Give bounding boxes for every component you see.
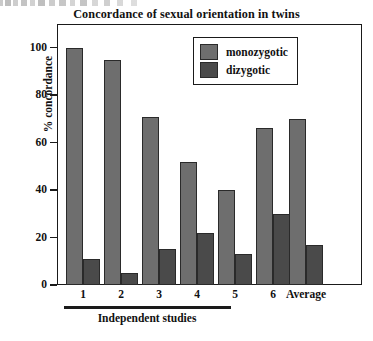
y-tick-mark xyxy=(50,284,57,286)
y-tick-mark xyxy=(50,237,57,239)
bar-dizygotic-average xyxy=(306,245,323,285)
y-tick-mark xyxy=(50,94,57,96)
chart-legend: monozygotic dizygotic xyxy=(193,37,298,85)
bar-monozygotic-6 xyxy=(256,128,273,285)
y-tick-label: 40 xyxy=(36,184,48,196)
bar-dizygotic-5 xyxy=(235,254,252,285)
legend-swatch-monozygotic xyxy=(200,44,218,60)
bar-dizygotic-6 xyxy=(273,214,290,285)
bar-monozygotic-average xyxy=(289,119,306,285)
bar-monozygotic-5 xyxy=(218,190,235,285)
y-tick-label: 60 xyxy=(36,136,48,148)
bar-monozygotic-2 xyxy=(104,60,121,285)
x-label-average: Average xyxy=(266,288,346,300)
bar-monozygotic-1 xyxy=(66,48,83,285)
bar-dizygotic-1 xyxy=(83,259,100,285)
bar-dizygotic-3 xyxy=(159,249,176,285)
independent-studies-bracket xyxy=(64,306,231,309)
bar-group-2 xyxy=(104,24,138,285)
y-axis-ticks: 020406080100 xyxy=(0,24,57,285)
x-axis-labels: 123456Average xyxy=(57,288,362,304)
x-axis-title: Independent studies xyxy=(57,312,237,324)
y-tick-label: 80 xyxy=(36,89,48,101)
y-tick-mark xyxy=(50,47,57,49)
bar-dizygotic-4 xyxy=(197,233,214,285)
bar-monozygotic-4 xyxy=(180,162,197,285)
legend-swatch-dizygotic xyxy=(200,62,218,78)
bar-group-3 xyxy=(142,24,176,285)
y-tick-mark xyxy=(50,142,57,144)
bar-group-1 xyxy=(66,24,100,285)
bar-dizygotic-2 xyxy=(121,273,138,285)
legend-item-monozygotic: monozygotic xyxy=(200,44,288,60)
y-tick-mark xyxy=(50,189,57,191)
legend-label-monozygotic: monozygotic xyxy=(226,46,288,58)
scan-artifact-text-fragment xyxy=(0,0,150,6)
bar-monozygotic-3 xyxy=(142,117,159,285)
y-tick-label: 20 xyxy=(36,231,48,243)
legend-label-dizygotic: dizygotic xyxy=(226,64,270,76)
chart-title: Concordance of sexual orientation in twi… xyxy=(0,7,373,22)
legend-item-dizygotic: dizygotic xyxy=(200,62,288,78)
y-tick-label: 100 xyxy=(30,41,47,53)
